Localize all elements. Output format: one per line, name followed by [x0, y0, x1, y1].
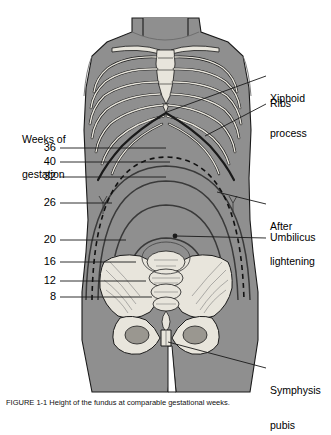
gestation-mark-36: 36 [30, 142, 56, 153]
annotation-xiphoid-process: Xiphoid process [270, 70, 307, 151]
pelvis [100, 242, 232, 354]
gestation-mark-16: 16 [30, 256, 56, 267]
gestation-mark-12: 12 [30, 275, 56, 286]
gestation-mark-8: 8 [30, 291, 56, 302]
gestation-mark-32: 32 [30, 171, 56, 182]
gestation-mark-40: 40 [30, 156, 56, 167]
gestation-mark-20: 20 [30, 234, 56, 245]
figure-caption: FIGURE 1-1 Height of the fundus at compa… [6, 398, 326, 407]
annotation-umbilicus: Umbilicus [270, 232, 316, 244]
gestation-mark-26: 26 [30, 197, 56, 208]
annotation-after-lightening-line2: lightening [270, 256, 315, 268]
annotation-symphysis-line1: Symphysis [270, 385, 321, 397]
annotation-ribs: Ribs [270, 98, 291, 110]
annotation-symphysis-line2: pubis [270, 420, 321, 432]
annotation-xiphoid-line2: process [270, 128, 307, 140]
